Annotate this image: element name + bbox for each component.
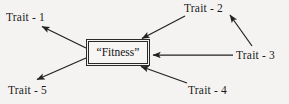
node-label-trait-3: Trait - 3 xyxy=(236,50,275,62)
node-label-trait-4: Trait - 4 xyxy=(188,85,227,97)
center-node-fitness: “Fitness” xyxy=(88,41,148,64)
arrow-trait-4-to-fitness xyxy=(141,67,187,84)
arrow-fitness-to-trait-5 xyxy=(37,58,86,80)
center-node-label: “Fitness” xyxy=(97,47,140,59)
arrow-trait-2-to-fitness xyxy=(142,16,185,39)
node-label-trait-2: Trait - 2 xyxy=(184,3,223,15)
node-label-trait-5: Trait - 5 xyxy=(8,85,47,97)
diagram-canvas: “Fitness” Trait - 1 Trait - 2 Trait - 3 … xyxy=(0,0,289,104)
node-label-trait-1: Trait - 1 xyxy=(6,12,45,24)
arrow-trait-3-to-trait-2 xyxy=(230,15,252,46)
arrow-fitness-to-trait-1 xyxy=(42,27,86,49)
